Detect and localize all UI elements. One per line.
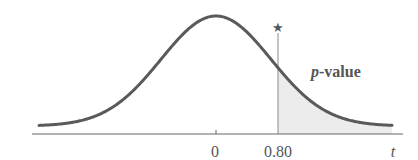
tick-label-observed: 0.80	[264, 143, 292, 160]
t-distribution-chart: ★ p-value 0 0.80 t	[0, 0, 418, 160]
p-value-label-p: p	[309, 63, 319, 81]
star-marker-icon: ★	[272, 20, 284, 35]
tick-label-zero: 0	[211, 143, 219, 160]
p-value-label: p-value	[309, 63, 361, 81]
p-value-label-rest: -value	[319, 63, 361, 80]
x-axis-label: t	[391, 143, 396, 160]
